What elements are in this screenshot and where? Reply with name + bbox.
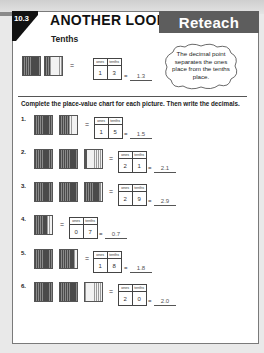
base-ten-block-full: [34, 182, 53, 202]
equals-sign: =: [124, 131, 128, 137]
equals-sign: =: [60, 221, 64, 228]
base-ten-block-full: [22, 56, 41, 76]
equals-sign: =: [85, 121, 89, 128]
decimal-answer[interactable]: 2.9: [154, 198, 176, 206]
header-ones: ones: [95, 118, 109, 125]
base-ten-block-partial: [44, 56, 63, 76]
place-value-chart: ones tenths 1 3: [93, 58, 122, 80]
base-ten-block-partial: [34, 215, 53, 235]
lesson-number: 10.3: [14, 14, 29, 23]
header-tenths: tenths: [133, 285, 147, 292]
ones-value[interactable]: 2: [119, 159, 133, 172]
tenths-value[interactable]: 0: [133, 292, 147, 305]
equals-sign: =: [148, 165, 152, 171]
base-ten-block-full: [59, 149, 78, 169]
tenths-value[interactable]: 9: [133, 192, 147, 205]
header-tenths: tenths: [108, 59, 122, 66]
instructions: Complete the place-value chart for each …: [21, 100, 240, 107]
decimal-answer[interactable]: 1.5: [130, 131, 152, 139]
equals-sign: =: [109, 288, 113, 295]
base-ten-block-full: [34, 282, 53, 302]
problem-number: 6.: [21, 283, 26, 289]
place-value-chart: ones tenths 1 8: [93, 251, 122, 273]
base-ten-block-full: [59, 182, 78, 202]
ones-value[interactable]: 1: [94, 259, 108, 272]
callout-cloud: The decimal point separates the ones pla…: [161, 42, 241, 92]
equals-sign: =: [99, 231, 103, 237]
base-ten-block-partial: [84, 182, 103, 202]
problem-number: 3.: [21, 183, 26, 189]
header-ones: ones: [94, 59, 108, 66]
problem-number: 2.: [21, 149, 26, 155]
header-ones: ones: [119, 285, 133, 292]
place-value-chart: ones tenths 1 5: [94, 117, 123, 139]
header-tenths: tenths: [133, 152, 147, 159]
problem-number: 4.: [21, 216, 26, 222]
page-title: ANOTHER LOOK: [50, 12, 167, 28]
place-value-chart: ones tenths 2 0: [118, 284, 147, 306]
reteach-banner: Reteach: [159, 11, 259, 33]
decimal-answer[interactable]: 0.7: [105, 231, 127, 239]
equals-sign: =: [124, 265, 128, 271]
tenths-value[interactable]: 8: [108, 259, 122, 272]
decimal-answer[interactable]: 2.1: [154, 165, 176, 173]
callout-text: The decimal point separates the ones pla…: [167, 50, 235, 80]
base-ten-block-partial: [84, 149, 103, 169]
header-ones: ones: [119, 185, 133, 192]
ones-value[interactable]: 2: [119, 292, 133, 305]
base-ten-block-partial: [59, 249, 78, 269]
decimal-answer[interactable]: 2.0: [154, 298, 176, 306]
tenths-value[interactable]: 7: [84, 225, 98, 238]
header-ones: ones: [94, 252, 108, 259]
header-tenths: tenths: [84, 218, 98, 225]
base-ten-block-full: [34, 115, 53, 135]
header-tenths: tenths: [108, 252, 122, 259]
tenths-value[interactable]: 5: [109, 125, 123, 138]
base-ten-block-full: [34, 149, 53, 169]
equals-sign: =: [109, 155, 113, 162]
decimal-answer: 1.3: [130, 73, 152, 81]
page-edge-shadow: [0, 12, 12, 16]
header-ones: ones: [70, 218, 84, 225]
place-value-chart: ones tenths 0 7: [69, 217, 98, 239]
base-ten-block-full: [59, 282, 78, 302]
equals-sign: =: [70, 62, 74, 69]
base-ten-block-empty: [84, 282, 103, 302]
place-value-chart: ones tenths 2 1: [118, 151, 147, 173]
place-value-chart: ones tenths 2 9: [118, 184, 147, 206]
problem-number: 1.: [21, 116, 26, 122]
base-ten-block-full: [34, 249, 53, 269]
lesson-badge: 10.3: [12, 11, 38, 41]
equals-sign: =: [124, 73, 128, 79]
equals-sign: =: [85, 255, 89, 262]
equals-sign: =: [148, 298, 152, 304]
ones-value[interactable]: 1: [95, 125, 109, 138]
equals-sign: =: [148, 198, 152, 204]
ones-value[interactable]: 2: [119, 192, 133, 205]
tenths-value: 3: [108, 66, 122, 79]
ones-value: 1: [94, 66, 108, 79]
tenths-value[interactable]: 1: [133, 159, 147, 172]
header-tenths: tenths: [133, 185, 147, 192]
section-divider: [18, 96, 247, 97]
decimal-answer[interactable]: 1.8: [130, 265, 152, 273]
base-ten-block-partial: [59, 115, 78, 135]
lesson-subtitle: Tenths: [51, 34, 78, 44]
equals-sign: =: [109, 188, 113, 195]
ones-value[interactable]: 0: [70, 225, 84, 238]
header-ones: ones: [119, 152, 133, 159]
header-tenths: tenths: [109, 118, 123, 125]
problem-number: 5.: [21, 250, 26, 256]
